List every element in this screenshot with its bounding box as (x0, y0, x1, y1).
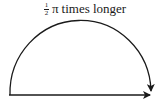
diagram-canvas (0, 0, 162, 103)
semicircle-arc (10, 20, 151, 95)
